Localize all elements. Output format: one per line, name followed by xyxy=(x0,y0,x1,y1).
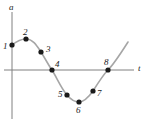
vertical-axis-label: a xyxy=(9,3,14,12)
data-point-label-7: 7 xyxy=(97,89,102,98)
data-point-6 xyxy=(76,99,81,104)
data-point-3 xyxy=(38,49,43,54)
data-point-1 xyxy=(9,42,14,47)
data-point-label-5: 5 xyxy=(58,90,63,99)
data-point-label-3: 3 xyxy=(46,45,51,54)
data-point-label-8: 8 xyxy=(104,58,109,67)
graph-figure: a t 12345678 xyxy=(0,0,151,126)
data-point-label-2: 2 xyxy=(23,28,28,37)
data-point-label-1: 1 xyxy=(3,42,8,51)
data-point-4 xyxy=(49,67,54,72)
data-point-8 xyxy=(105,67,110,72)
data-point-7 xyxy=(90,88,95,93)
data-point-2 xyxy=(23,36,28,41)
horizontal-axis-label: t xyxy=(138,64,141,73)
data-point-label-4: 4 xyxy=(55,60,60,69)
data-point-5 xyxy=(64,92,69,97)
data-point-label-6: 6 xyxy=(76,106,81,115)
